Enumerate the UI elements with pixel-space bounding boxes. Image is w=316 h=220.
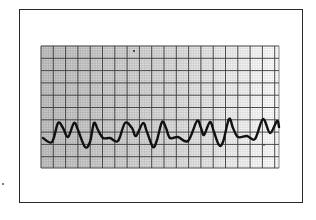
ink-dot (133, 50, 135, 52)
ink-dot (263, 144, 265, 146)
ecg-strip (0, 0, 316, 220)
